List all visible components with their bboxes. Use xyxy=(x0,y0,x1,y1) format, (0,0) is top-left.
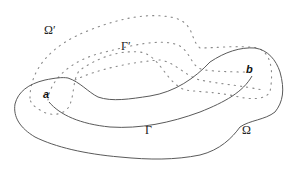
omega-prime-boundary xyxy=(30,16,272,115)
gamma-prime-inner-curve xyxy=(75,60,262,90)
gamma-prime-curve xyxy=(48,42,252,100)
point-b-label: b xyxy=(246,64,253,75)
gamma-label: Γ xyxy=(145,124,152,136)
omega-prime-label: Ω′ xyxy=(44,24,56,36)
omega-label: Ω xyxy=(242,124,251,136)
point-a-label: a xyxy=(43,89,49,100)
omega-boundary xyxy=(15,48,283,159)
gamma-prime-label: Γ′ xyxy=(121,40,131,52)
